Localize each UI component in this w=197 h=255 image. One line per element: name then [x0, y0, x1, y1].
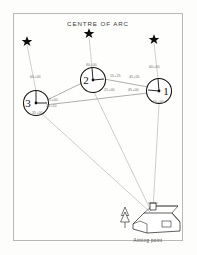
annotation-gun2-upper-right: 15+25 — [110, 74, 121, 78]
gun-3-pivot — [35, 102, 38, 105]
star-right — [149, 34, 160, 44]
line-gun3-gun1-lower — [45, 93, 148, 105]
annotation-gun3-lower: 35+00 — [32, 111, 43, 115]
ray-gun3-to-star — [27, 45, 36, 91]
annotation-gun2-centre-of-arc: 60+00 — [86, 63, 97, 67]
tree-icon — [121, 207, 130, 228]
star-centre — [84, 28, 95, 38]
gun-1-pivot — [158, 90, 161, 93]
artillery-centre-of-arc-diagram: CENTRE OF ARC 3 2 — [0, 0, 197, 255]
aiming-point-lines — [40, 92, 159, 212]
page-title: CENTRE OF ARC — [67, 20, 129, 27]
annotation-gun3-to-gun2: 15+00 — [47, 98, 58, 102]
aiming-point-building — [121, 203, 180, 233]
annotation-gun3-to-aiming-point: 20+10 — [46, 104, 57, 108]
annotation-gun1-lower: 60+00 — [153, 100, 164, 104]
gun-1-label: 1 — [163, 85, 169, 97]
annotation-gun3-centre-of-arc: 60+00 — [30, 75, 41, 79]
annotation-gun1-upper-left: 45+05 — [129, 75, 140, 79]
gun-2-pivot — [92, 79, 95, 82]
line-gun2-gun1 — [104, 79, 148, 87]
gun-3-label: 3 — [25, 97, 31, 109]
house-body — [133, 213, 180, 233]
gun-2-label: 2 — [83, 74, 89, 86]
aiming-point-caption: Aiming point — [134, 238, 163, 243]
annotation-gun1-centre-of-arc: 60+00 — [149, 65, 160, 69]
star-left — [22, 36, 33, 46]
gun-position-2[interactable]: 2 — [81, 68, 106, 93]
line-gun2-to-aiming-point — [94, 92, 151, 211]
diagram-page: CENTRE OF ARC 3 2 — [0, 0, 197, 255]
line-gun3-to-aiming-point — [40, 112, 150, 212]
line-gun1-to-aiming-point — [153, 104, 159, 210]
house-chimney — [150, 203, 156, 210]
ray-gun1-to-star — [154, 43, 158, 79]
annotation-gun1-lower-left: 45+00 — [128, 88, 139, 92]
annotation-gun2-lower-right: 25+00 — [104, 88, 115, 92]
